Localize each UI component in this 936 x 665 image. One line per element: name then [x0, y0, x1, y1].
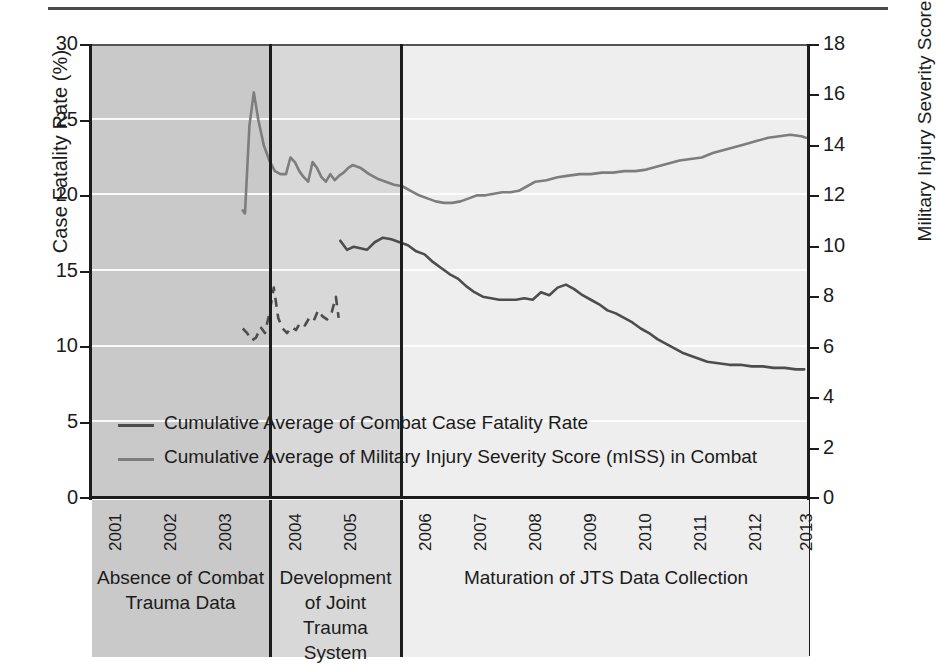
legend-swatch-miss: [118, 458, 154, 461]
tick-mark-left: [80, 271, 89, 273]
y-tick-right-2: 2: [823, 436, 865, 459]
period-label-2-line2: of Joint Trauma: [271, 590, 400, 640]
x-tick-2011: 2011: [691, 514, 711, 551]
x-tick-2009: 2009: [581, 513, 601, 551]
tick-mark-right: [810, 44, 819, 46]
legend-item-cfr: Cumulative Average of Combat Case Fatali…: [118, 408, 718, 442]
period-label-2: Development of Joint Trauma System: [271, 565, 400, 665]
y-tick-left-10: 10: [36, 334, 78, 357]
tick-mark-left: [80, 195, 89, 197]
period-label-3-line1: Maturation of JTS Data Collection: [403, 565, 809, 590]
tick-mark-right: [810, 448, 819, 450]
y-tick-right-18: 18: [823, 32, 865, 55]
x-tick-2002: 2002: [161, 513, 181, 551]
y-axis-right-title: Military Injury Severity Score: [914, 0, 936, 291]
y-tick-right-8: 8: [823, 284, 865, 307]
y-tick-right-4: 4: [823, 385, 865, 408]
y-tick-left-5: 5: [36, 410, 78, 433]
tick-mark-right: [810, 145, 819, 147]
x-tick-2008: 2008: [526, 513, 546, 551]
tick-mark-right: [810, 94, 819, 96]
period-label-2-line3: System: [271, 640, 400, 665]
x-tick-2007: 2007: [471, 513, 491, 551]
x-tick-2013: 2013: [797, 513, 817, 551]
y-tick-left-20: 20: [36, 183, 78, 206]
y-tick-right-14: 14: [823, 133, 865, 156]
tick-mark-right: [810, 347, 819, 349]
y-tick-right-10: 10: [823, 234, 865, 257]
legend-swatch-cfr: [118, 424, 154, 427]
period-label-3: Maturation of JTS Data Collection: [403, 565, 809, 590]
x-tick-2001: 2001: [106, 513, 126, 551]
period-label-1-line2: Trauma Data: [92, 590, 269, 615]
tick-mark-left: [80, 44, 89, 46]
period-label-1-line1: Absence of Combat: [92, 565, 269, 590]
legend-label-miss: Cumulative Average of Military Injury Se…: [164, 446, 757, 468]
period-label-1: Absence of Combat Trauma Data: [92, 565, 269, 615]
y-tick-right-0: 0: [823, 486, 865, 509]
tick-mark-right: [810, 246, 819, 248]
tick-mark-right: [810, 397, 819, 399]
tick-mark-right: [810, 195, 819, 197]
y-tick-left-15: 15: [36, 259, 78, 282]
y-tick-right-6: 6: [823, 335, 865, 358]
tick-mark-left: [80, 120, 89, 122]
period-label-2-line1: Development: [271, 565, 400, 590]
x-tick-2003: 2003: [216, 513, 236, 551]
x-axis-line: [92, 496, 807, 499]
legend-label-cfr: Cumulative Average of Combat Case Fatali…: [164, 412, 588, 434]
legend-item-miss: Cumulative Average of Military Injury Se…: [118, 442, 718, 476]
cfr-line-dashed: [243, 288, 339, 341]
x-tick-2012: 2012: [746, 513, 766, 551]
tick-mark-left: [80, 422, 89, 424]
y-tick-right-12: 12: [823, 183, 865, 206]
top-rule: [48, 7, 888, 10]
y-tick-left-0: 0: [36, 486, 78, 509]
y-tick-left-30: 30: [36, 32, 78, 55]
x-tick-2010: 2010: [636, 513, 656, 551]
x-tick-2004: 2004: [286, 513, 306, 551]
tick-mark-right: [810, 296, 819, 298]
x-tick-2006: 2006: [416, 513, 436, 551]
tick-mark-left: [80, 497, 89, 499]
x-tick-2005: 2005: [341, 513, 361, 551]
y-tick-right-16: 16: [823, 82, 865, 105]
y-tick-left-25: 25: [36, 108, 78, 131]
legend: Cumulative Average of Combat Case Fatali…: [118, 408, 718, 476]
miss-line: [243, 92, 806, 213]
tick-mark-right: [810, 497, 819, 499]
y-axis-left-spine: [89, 44, 92, 500]
tick-mark-left: [80, 346, 89, 348]
cfr-line-solid: [340, 238, 804, 370]
